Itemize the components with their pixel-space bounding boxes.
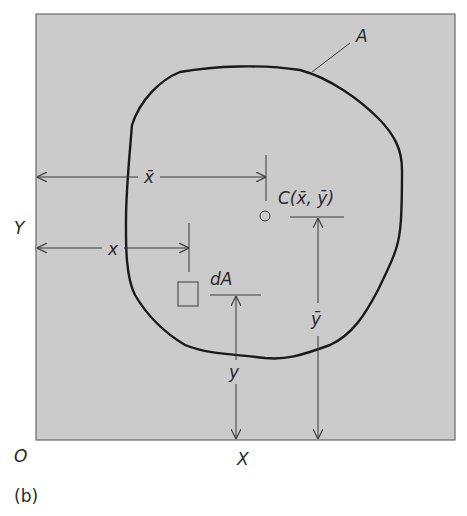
centroid-diagram: A x̄ C(x̄, ȳ) x dA y ȳ Y O X (b) bbox=[0, 0, 467, 516]
y-label: y bbox=[228, 362, 240, 382]
dA-label: dA bbox=[210, 269, 232, 289]
origin-label: O bbox=[14, 446, 27, 466]
x-label: x bbox=[107, 239, 119, 259]
x-axis-label: X bbox=[236, 449, 249, 469]
area-label: A bbox=[355, 26, 368, 46]
figure-caption: (b) bbox=[14, 486, 38, 506]
y-bar-label: ȳ bbox=[310, 309, 322, 329]
centroid-label: C(x̄, ȳ) bbox=[278, 188, 334, 208]
panel bbox=[36, 14, 455, 440]
y-axis-label: Y bbox=[14, 218, 26, 238]
x-bar-label: x̄ bbox=[143, 167, 155, 187]
